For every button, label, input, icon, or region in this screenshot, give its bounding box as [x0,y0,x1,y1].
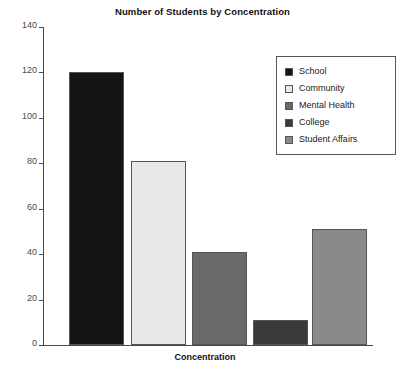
legend-item-community[interactable]: Community [285,80,389,97]
bar-college [253,320,308,345]
legend-item-label: Student Affairs [299,135,357,144]
y-tick-label: 60 [27,202,37,212]
x-axis-line [43,345,373,346]
y-axis-tick: 40 [0,254,44,255]
legend-swatch-icon [285,85,293,93]
legend-item-label: School [299,67,327,76]
bar-student-affairs [312,229,367,345]
y-tick-label: 40 [27,247,37,257]
y-axis-tick: 140 [0,27,44,28]
y-tick-label: 100 [22,111,37,121]
y-axis-tick: 60 [0,209,44,210]
legend-item-label: Community [299,84,345,93]
legend-item-college[interactable]: College [285,114,389,131]
bar-community [131,161,186,345]
bar-mental-health [192,252,247,345]
y-tick-label: 80 [27,156,37,166]
legend-item-mental-health[interactable]: Mental Health [285,97,389,114]
y-tick-mark [39,345,44,346]
y-axis-tick: 120 [0,72,44,73]
bar-school [69,72,124,345]
y-axis-tick: 0 [0,345,44,346]
legend-item-student-affairs[interactable]: Student Affairs [285,131,389,148]
y-axis-tick: 80 [0,163,44,164]
y-axis-tick: 20 [0,300,44,301]
y-tick-label: 120 [22,65,37,75]
legend-item-label: College [299,118,330,127]
chart-legend: SchoolCommunityMental HealthCollegeStude… [276,56,396,155]
x-axis-label: Concentration [44,352,366,362]
y-axis-tick: 100 [0,118,44,119]
bar-chart: Number of Students by Concentration 0204… [0,0,405,374]
legend-swatch-icon [285,119,293,127]
chart-title: Number of Students by Concentration [0,6,405,17]
y-tick-label: 0 [32,338,37,348]
legend-swatch-icon [285,68,293,76]
legend-swatch-icon [285,102,293,110]
legend-item-school[interactable]: School [285,63,389,80]
y-tick-label: 20 [27,293,37,303]
legend-item-label: Mental Health [299,101,355,110]
y-tick-label: 140 [22,20,37,30]
legend-swatch-icon [285,136,293,144]
